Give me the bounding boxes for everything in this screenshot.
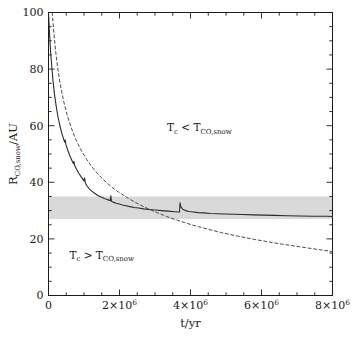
x-tick-label: 0: [45, 299, 52, 312]
x-tick-label: 8×106: [315, 298, 350, 312]
x-tick-label: 4×106: [173, 298, 208, 312]
y-tick-label: 100: [23, 6, 44, 19]
x-tick-label: 2×106: [102, 298, 137, 312]
figure-container: 02040608010002×1064×1066×1068×106 Tc < T…: [0, 0, 357, 337]
lower-region-label: Tc > TCO,snow: [69, 249, 134, 264]
y-tick-label: 40: [30, 176, 44, 189]
x-tick-label: 6×106: [244, 298, 279, 312]
upper-region-label: Tc < TCO,snow: [167, 121, 232, 136]
series-model-snowline-solid: [49, 13, 333, 217]
y-tick-label: 60: [30, 120, 44, 133]
y-axis-title: RCO,snow/AU: [6, 123, 22, 185]
x-axis-title: t/yr: [180, 316, 201, 330]
y-tick-label: 80: [30, 63, 44, 76]
chart-canvas: 02040608010002×1064×1066×1068×106 Tc < T…: [0, 0, 357, 337]
y-tick-label: 0: [37, 289, 44, 302]
y-tick-label: 20: [30, 233, 44, 246]
